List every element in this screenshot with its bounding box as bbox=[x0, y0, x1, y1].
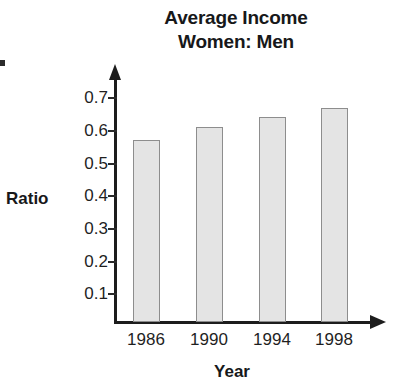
y-axis-tick-label-wrap: 0.5 bbox=[54, 155, 108, 172]
plot-area: 0.7 0.6 0.5 0.4 0.3 0.2 0.1 Ratio Year bbox=[0, 0, 401, 384]
page-edge-artifact bbox=[0, 60, 5, 66]
y-axis-tick-label: 0.2 bbox=[62, 253, 108, 270]
y-axis-tick bbox=[108, 97, 117, 99]
y-axis-line bbox=[114, 78, 117, 324]
y-axis-tick-label: 0.5 bbox=[62, 155, 108, 172]
x-axis-tick-label-1994: 1994 bbox=[244, 330, 300, 349]
x-axis-tick-label-1986: 1986 bbox=[118, 330, 174, 349]
bar-1998 bbox=[321, 108, 348, 322]
y-axis-tick-label-wrap: 0.2 bbox=[54, 253, 108, 270]
y-axis-tick bbox=[108, 228, 117, 230]
y-axis-tick bbox=[108, 130, 117, 132]
x-axis-tick-label-1990: 1990 bbox=[181, 330, 237, 349]
y-axis-tick bbox=[108, 195, 117, 197]
x-axis-arrow-icon bbox=[370, 315, 386, 329]
y-axis-tick-label: 0.7 bbox=[62, 89, 108, 106]
y-axis-tick-label-wrap: 0.6 bbox=[54, 122, 108, 139]
x-axis-tick-label-1998: 1998 bbox=[306, 330, 362, 349]
y-axis-tick-label: 0.3 bbox=[62, 220, 108, 237]
y-axis-tick-label-wrap: 0.1 bbox=[54, 285, 108, 302]
y-axis-tick-label: 0.4 bbox=[62, 187, 108, 204]
y-axis-tick-label-wrap: 0.4 bbox=[54, 187, 108, 204]
y-axis-title: Ratio bbox=[6, 189, 49, 209]
y-axis-tick bbox=[108, 163, 117, 165]
bar-chart-figure: Average Income Women: Men 0.7 0.6 0.5 0.… bbox=[0, 0, 401, 384]
bar-1994 bbox=[259, 117, 286, 322]
bar-1990 bbox=[196, 127, 223, 322]
y-axis-tick-label-wrap: 0.7 bbox=[54, 89, 108, 106]
x-axis-title: Year bbox=[142, 362, 322, 382]
y-axis-tick-label: 0.1 bbox=[62, 285, 108, 302]
y-axis-tick-label-wrap: 0.3 bbox=[54, 220, 108, 237]
bar-1986 bbox=[133, 140, 160, 322]
y-axis-arrow-icon bbox=[109, 64, 121, 80]
y-axis-tick bbox=[108, 293, 117, 295]
y-axis-tick-label: 0.6 bbox=[62, 122, 108, 139]
y-axis-tick bbox=[108, 261, 117, 263]
